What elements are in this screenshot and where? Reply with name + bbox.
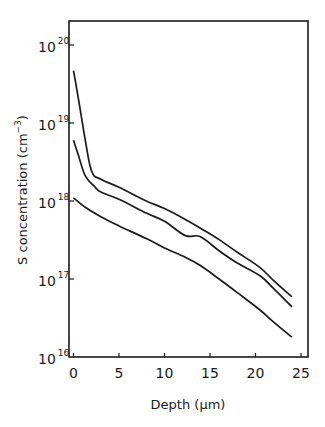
- series-line-curve-middle: [74, 140, 292, 306]
- x-tick-label: 5: [115, 365, 124, 381]
- plot-border: [69, 21, 308, 357]
- x-tick-label: 25: [292, 365, 310, 381]
- data-series: [74, 71, 292, 338]
- y-tick-label: 1017: [38, 270, 69, 289]
- y-axis-title-main: S concentration (cm: [15, 133, 30, 264]
- x-axis-title: Depth (µm): [151, 397, 226, 412]
- chart: 0510152025 10201019101810171016 Depth (µ…: [0, 0, 325, 427]
- y-tick-label: 1018: [38, 192, 70, 211]
- y-tick-label: 1016: [38, 348, 70, 367]
- series-line-curve-top: [74, 71, 292, 297]
- x-tick-label: 10: [156, 365, 174, 381]
- x-tick-label: 0: [69, 365, 78, 381]
- y-axis-title: S concentration (cm−3): [13, 115, 30, 265]
- y-axis-title-exp: −3: [13, 120, 23, 133]
- y-tick-label: 1020: [38, 36, 70, 55]
- y-axis-title-close: ): [15, 115, 30, 120]
- y-tick-label: 1019: [38, 114, 70, 133]
- y-axis-title-group: S concentration (cm−3): [13, 115, 30, 265]
- plot-frame: [69, 21, 308, 357]
- x-tick-label: 15: [201, 365, 219, 381]
- x-tick-label: 20: [247, 365, 265, 381]
